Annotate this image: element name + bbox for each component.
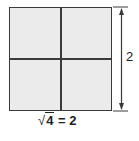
diagram: 2 √4 = 2 xyxy=(0,0,139,141)
radicand: 4 xyxy=(45,112,54,128)
side-length-label: 2 xyxy=(126,49,133,64)
result-value: 2 xyxy=(69,113,76,128)
equals-sign: = xyxy=(54,113,69,128)
square-root-formula: √4 = 2 xyxy=(38,113,76,128)
